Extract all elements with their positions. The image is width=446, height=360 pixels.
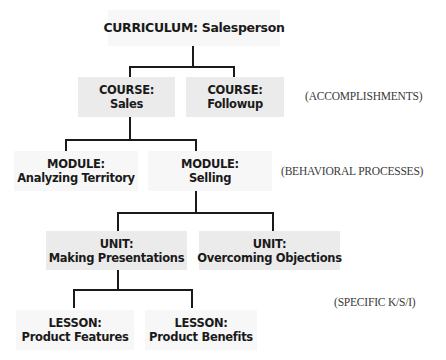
connector-module-selling-drop bbox=[195, 139, 197, 151]
module-name: Analyzing Territory bbox=[17, 171, 135, 185]
lesson-node-product-benefits: LESSON: Product Benefits bbox=[145, 310, 257, 350]
connector-lesson-benefits-drop bbox=[191, 289, 193, 308]
connector-course-followup-drop bbox=[233, 66, 235, 77]
connector-selling-stem bbox=[195, 191, 197, 213]
lesson-type-label: LESSON: bbox=[48, 316, 101, 330]
module-node-analyzing-territory: MODULE: Analyzing Territory bbox=[14, 151, 138, 191]
course-node-followup: COURSE: Followup bbox=[186, 77, 284, 117]
module-name: Selling bbox=[189, 171, 231, 185]
level-label-specific-ksi: (SPECIFIC K/S/I) bbox=[334, 296, 415, 308]
connector-sales-stem bbox=[129, 117, 131, 140]
connector-units-bar bbox=[117, 212, 274, 214]
connector-lessons-bar bbox=[73, 289, 193, 291]
connector-modules-bar bbox=[65, 139, 197, 141]
course-name: Followup bbox=[207, 97, 263, 111]
course-name: Sales bbox=[110, 97, 143, 111]
course-type-label: COURSE: bbox=[207, 83, 262, 97]
connector-presentations-stem bbox=[117, 270, 119, 291]
level-label-accomplishments: (ACCOMPLISHMENTS) bbox=[305, 90, 422, 102]
connector-lesson-features-drop bbox=[73, 289, 75, 308]
connector-module-territory-drop bbox=[65, 139, 67, 151]
unit-type-label: UNIT: bbox=[253, 237, 287, 251]
connector-course-sales-drop bbox=[129, 66, 131, 77]
connector-curriculum-stem bbox=[192, 46, 194, 67]
lesson-node-product-features: LESSON: Product Features bbox=[16, 310, 134, 350]
course-node-sales: COURSE: Sales bbox=[78, 77, 175, 117]
unit-node-overcoming-objections: UNIT: Overcoming Objections bbox=[199, 231, 340, 270]
unit-name: Overcoming Objections bbox=[197, 251, 341, 265]
module-node-selling: MODULE: Selling bbox=[148, 151, 272, 191]
unit-node-making-presentations: UNIT: Making Presentations bbox=[46, 231, 187, 270]
course-type-label: COURSE: bbox=[99, 83, 154, 97]
curriculum-node: CURRICULUM: Salesperson bbox=[108, 10, 280, 46]
module-type-label: MODULE: bbox=[181, 157, 239, 171]
connector-unit-presentations-drop bbox=[117, 212, 119, 231]
unit-type-label: UNIT: bbox=[100, 237, 134, 251]
lesson-name: Product Features bbox=[22, 330, 129, 344]
curriculum-title: CURRICULUM: Salesperson bbox=[103, 21, 284, 35]
lesson-name: Product Benefits bbox=[149, 330, 253, 344]
connector-unit-objections-drop bbox=[272, 212, 274, 231]
module-type-label: MODULE: bbox=[47, 157, 105, 171]
unit-name: Making Presentations bbox=[49, 251, 185, 265]
lesson-type-label: LESSON: bbox=[174, 316, 227, 330]
level-label-behavioral-processes: (BEHAVIORAL PROCESSES) bbox=[281, 165, 423, 177]
connector-courses-bar bbox=[129, 66, 235, 68]
